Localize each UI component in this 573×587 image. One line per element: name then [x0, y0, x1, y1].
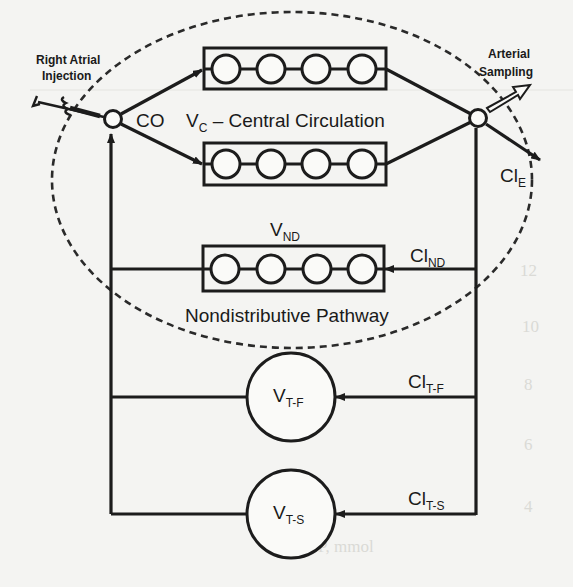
arterial-node [470, 110, 487, 127]
bleed-tick-4: 4 [524, 497, 533, 516]
nd-pathway-label: Nondistributive Pathway [185, 305, 389, 326]
diagram-canvas: 12 10 8 6 4 P, mmol Right Atrial Injecti… [0, 0, 573, 587]
injection-label-line1: Right Atrial [36, 53, 100, 67]
cardiac-output-label: CO [136, 110, 165, 131]
bleed-tick-6: 6 [524, 435, 533, 454]
bleed-tick-10: 10 [522, 317, 539, 336]
sampling-label-line2: Sampling [479, 65, 533, 79]
right-atrium-node [105, 111, 122, 128]
bleed-tick-12: 12 [520, 261, 537, 280]
circulation-model-diagram: 12 10 8 6 4 P, mmol Right Atrial Injecti… [0, 0, 573, 587]
injection-label-line2: Injection [42, 69, 91, 83]
sampling-label-line1: Arterial [488, 47, 530, 61]
bleed-tick-8: 8 [524, 375, 533, 394]
